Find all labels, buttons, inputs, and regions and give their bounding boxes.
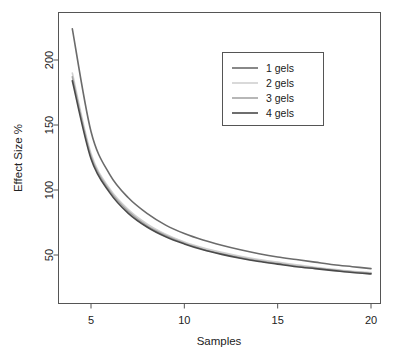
x-axis-ticks [91,304,371,309]
chart-figure: 50100150200 5101520 Samples Effect Size … [0,0,400,361]
series-lines [72,29,371,274]
y-axis-tick-labels: 50100150200 [43,51,55,261]
y-tick-label: 200 [43,51,55,69]
x-tick-label: 20 [365,314,377,326]
series-line [72,77,371,273]
x-tick-label: 5 [88,314,94,326]
x-axis-tick-labels: 5101520 [88,314,377,326]
legend-label-2: 2 gels [266,77,294,89]
x-tick-label: 10 [178,314,190,326]
legend-label-1: 1 gels [266,62,294,74]
y-tick-label: 150 [43,116,55,134]
legend-label-3: 3 gels [266,92,294,104]
y-tick-label: 50 [43,249,55,261]
chart-legend: 1 gels2 gels3 gels4 gels [223,53,324,126]
series-line [72,29,371,269]
line-chart: 50100150200 5101520 Samples Effect Size … [0,0,400,361]
series-line [72,73,371,273]
y-axis-title: Effect Size % [12,124,24,192]
y-tick-label: 100 [43,181,55,199]
x-tick-label: 15 [272,314,284,326]
x-axis-title: Samples [197,335,242,347]
y-axis-ticks [54,60,59,255]
plot-frame [59,13,381,304]
legend-label-4: 4 gels [266,107,294,119]
